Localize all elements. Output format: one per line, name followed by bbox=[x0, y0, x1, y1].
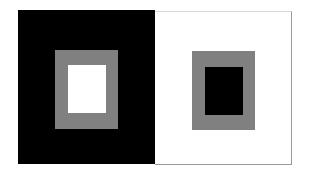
left-white-inner-square bbox=[68, 65, 106, 113]
right-black-inner-square bbox=[205, 67, 243, 115]
